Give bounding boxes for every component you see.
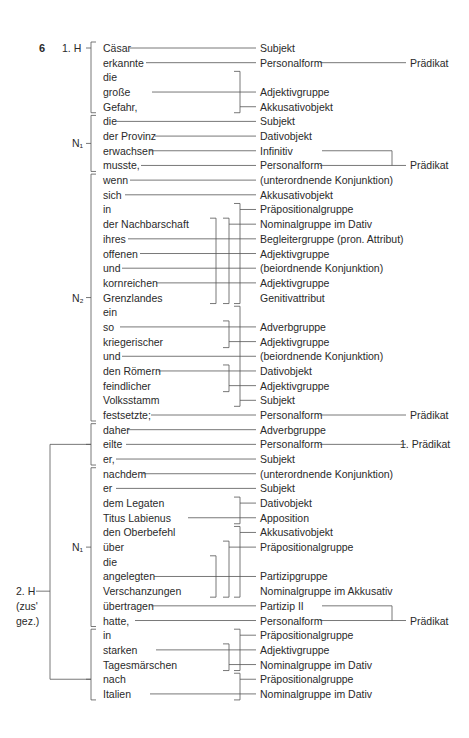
word-item: erkannte <box>103 57 144 69</box>
function-label: Adverbgruppe <box>260 424 326 436</box>
function-label: Akkusativobjekt <box>260 189 333 201</box>
function-label: Akkusativobjekt <box>260 526 333 538</box>
word-item: musste, <box>103 159 140 171</box>
predicate-label: Prädikat <box>410 159 449 171</box>
function-label: Dativobjekt <box>260 497 312 509</box>
function-label: Personalform <box>260 57 322 69</box>
word-item: er <box>103 482 112 494</box>
word-item: den Oberbefehl <box>103 526 175 538</box>
function-label: Partizipgruppe <box>260 570 328 582</box>
word-item: wenn <box>103 174 128 186</box>
word-item: eilte <box>103 438 122 450</box>
predicate-label: Prädikat <box>410 57 449 69</box>
function-label: Begleitergruppe (pron. Attribut) <box>260 233 404 245</box>
function-label: Adjektivgruppe <box>260 644 329 656</box>
function-label: Adjektivgruppe <box>260 380 329 392</box>
word-item: Grenzlandes <box>103 292 163 304</box>
word-item: Verschanzungen <box>103 585 181 597</box>
word-item: und <box>103 262 121 274</box>
function-label: Subjekt <box>260 394 295 406</box>
word-item: dem Legaten <box>103 497 164 509</box>
word-item: der Nachbarschaft <box>103 218 189 230</box>
word-item: Volksstamm <box>103 394 160 406</box>
clause-label-h1: 1. H <box>62 42 81 54</box>
function-label: Nominalgruppe im Dativ <box>260 659 372 671</box>
word-item: übertragen <box>103 600 154 612</box>
function-label: Personalform <box>260 409 322 421</box>
word-item: ihres <box>103 233 126 245</box>
function-label: (beiordnende Konjunktion) <box>260 262 383 274</box>
function-label: Dativobjekt <box>260 365 312 377</box>
function-label: (beiordnende Konjunktion) <box>260 350 383 362</box>
function-label: Nominalgruppe im Dativ <box>260 218 372 230</box>
word-item: angelegten <box>103 570 155 582</box>
function-label: Adverbgruppe <box>260 321 326 333</box>
word-item: der Provinz <box>103 130 156 142</box>
function-label: Akkusativobjekt <box>260 101 333 113</box>
word-item: über <box>103 541 124 553</box>
function-label: Präpositionalgruppe <box>260 203 353 215</box>
function-label: (unterordnende Konjunktion) <box>260 468 393 480</box>
word-item: offenen <box>103 248 138 260</box>
word-item: und <box>103 350 121 362</box>
word-item: ein <box>103 306 117 318</box>
word-item: in <box>103 629 111 641</box>
word-item: die <box>103 556 117 568</box>
function-label: Apposition <box>260 512 309 524</box>
word-item: Tagesmärschen <box>103 659 177 671</box>
word-item: Titus Labienus <box>103 512 171 524</box>
function-label: Adjektivgruppe <box>260 277 329 289</box>
function-label: Genitivattribut <box>260 292 325 304</box>
function-label: Personalform <box>260 438 322 450</box>
function-label: Partizip II <box>260 600 304 612</box>
exercise-number: 6 <box>39 42 45 54</box>
predicate-label: 1. Prädikat <box>400 438 450 450</box>
function-label: Präpositionalgruppe <box>260 541 353 553</box>
word-item: die <box>103 71 117 83</box>
connector-lines <box>0 0 469 738</box>
function-label: Personalform <box>260 615 322 627</box>
predicate-label: Prädikat <box>410 615 449 627</box>
word-item: kriegerischer <box>103 336 163 348</box>
word-item: feindlicher <box>103 380 151 392</box>
function-label: Personalform <box>260 159 322 171</box>
function-label: Dativobjekt <box>260 130 312 142</box>
function-label: Infinitiv <box>260 145 293 157</box>
word-item: in <box>103 203 111 215</box>
word-item: hatte, <box>103 615 129 627</box>
word-item: er, <box>103 453 115 465</box>
function-label: Präpositionalgruppe <box>260 629 353 641</box>
word-item: daher <box>103 424 130 436</box>
word-item: erwachsen <box>103 145 154 157</box>
function-label: Präpositionalgruppe <box>260 673 353 685</box>
clause-label-h2b: (zus' <box>16 600 38 612</box>
word-item: Gefahr, <box>103 101 137 113</box>
clause-label-n1b: N₁ <box>72 541 83 553</box>
word-item: kornreichen <box>103 277 158 289</box>
sentence-analysis-diagram: 6 1. HN₁N₂N₁2. H(zus'gez.) Cäsarerkannte… <box>0 0 469 738</box>
word-item: nachdem <box>103 468 146 480</box>
function-label: Nominalgruppe im Dativ <box>260 688 372 700</box>
word-item: Italien <box>103 688 131 700</box>
function-label: Subjekt <box>260 42 295 54</box>
function-label: Subjekt <box>260 453 295 465</box>
function-label: (unterordnende Konjunktion) <box>260 174 393 186</box>
function-label: Adjektivgruppe <box>260 86 329 98</box>
word-item: starken <box>103 644 137 656</box>
word-item: nach <box>103 673 126 685</box>
word-item: große <box>103 86 130 98</box>
function-label: Subjekt <box>260 115 295 127</box>
word-item: sich <box>103 189 122 201</box>
word-item: Cäsar <box>103 42 131 54</box>
predicate-label: Prädikat <box>410 409 449 421</box>
clause-label-n2: N₂ <box>72 292 84 304</box>
word-item: so <box>103 321 114 333</box>
word-item: festsetzte; <box>103 409 151 421</box>
word-item: den Römern <box>103 365 161 377</box>
function-label: Adjektivgruppe <box>260 248 329 260</box>
clause-label-n1a: N₁ <box>72 137 83 149</box>
function-label: Subjekt <box>260 482 295 494</box>
clause-label-h2: 2. H <box>16 585 35 597</box>
function-label: Adjektivgruppe <box>260 336 329 348</box>
word-item: die <box>103 115 117 127</box>
